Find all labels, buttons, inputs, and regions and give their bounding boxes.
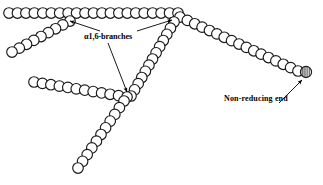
arrow-to-lower-branch-point bbox=[108, 43, 127, 92]
glycogen-structure-diagram: α1,6-branches Non-reducing end bbox=[0, 0, 323, 185]
glucose-residue bbox=[7, 47, 18, 58]
alpha-1-6-branches-label: α1,6-branches bbox=[84, 33, 132, 41]
chain-mid-left-horizontal-chain bbox=[29, 77, 133, 103]
arrow-to-upper-left-branch-point bbox=[70, 21, 100, 31]
chain-lower-descending-chain bbox=[73, 96, 130, 174]
terminal-glucose-residue bbox=[300, 66, 311, 77]
non-reducing-end-label: Non-reducing end bbox=[224, 95, 288, 103]
glycogen-chain-canvas bbox=[0, 0, 323, 185]
chain-central-descending-chain bbox=[126, 17, 180, 102]
chain-upper-left-branch bbox=[7, 16, 76, 58]
glucose-residue bbox=[73, 163, 84, 174]
residue-chains bbox=[4, 8, 304, 174]
chain-main-horizontal-backbone bbox=[4, 8, 184, 19]
non-reducing-end-residue bbox=[300, 66, 311, 77]
chain-right-descending-chain bbox=[175, 12, 304, 77]
